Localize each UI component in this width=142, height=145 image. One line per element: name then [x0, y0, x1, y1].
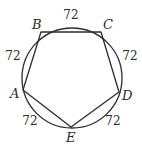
vertex-label-a: A	[9, 86, 19, 101]
arc-label-cd: 72	[122, 49, 137, 63]
arc-measure-labels: 72 72 72 72 72	[5, 8, 137, 128]
pentagon-abcde	[23, 32, 119, 127]
vertex-label-d: D	[121, 88, 133, 103]
arc-label-bc: 72	[63, 8, 78, 22]
arc-label-de: 72	[105, 114, 120, 128]
pentagon-diagram: A B C D E 72 72 72 72 72	[0, 0, 142, 145]
arc-label-ae: 72	[22, 114, 37, 128]
vertex-label-b: B	[31, 17, 42, 32]
vertex-label-c: C	[103, 17, 113, 32]
vertex-label-e: E	[65, 130, 76, 145]
arc-label-ab: 72	[5, 49, 20, 63]
